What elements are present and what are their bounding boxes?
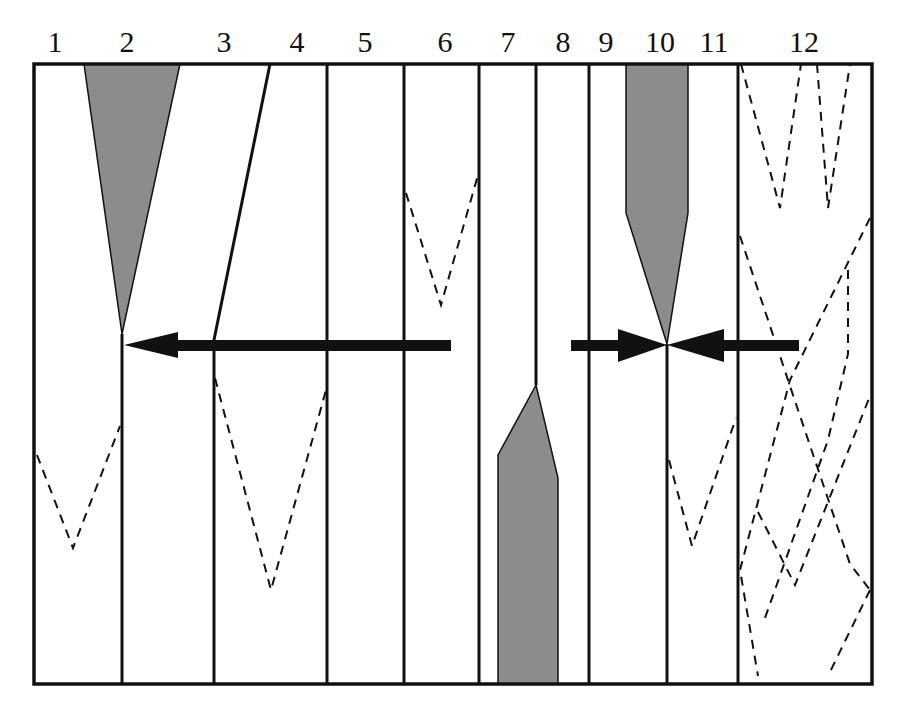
column-label-12: 12: [789, 25, 819, 58]
column-label-11: 11: [700, 25, 729, 58]
column-label-7: 7: [501, 25, 516, 58]
arrow-left-head: [124, 332, 178, 358]
column-label-2: 2: [120, 25, 135, 58]
zigzag-col12-top-a: [741, 64, 801, 208]
zigzag-col12-cross-d: [758, 396, 870, 585]
arrow-left-shaft: [175, 340, 451, 351]
column-label-9: 9: [599, 25, 614, 58]
arrow-left-in-head: [667, 329, 724, 362]
zigzag-col12-cross-c: [765, 270, 848, 618]
zigzag-col11: [669, 418, 736, 546]
strip-diagram: 1 2 3 4 5 6 7 8 9 10 11 12: [0, 0, 897, 716]
wedge-col10: [626, 64, 688, 344]
zigzag-col12-top-b: [817, 64, 850, 208]
wedge-col7-8: [498, 385, 558, 684]
arrow-right-in-shaft: [571, 340, 621, 351]
dashed-zigzags: [37, 64, 870, 676]
zigzag-col12-bottom: [828, 590, 870, 676]
arrow-left-in-shaft: [720, 340, 799, 351]
wedge-col2: [84, 64, 180, 334]
zigzag-col1: [37, 426, 120, 548]
column-label-10: 10: [645, 25, 675, 58]
gray-wedges: [84, 64, 688, 684]
zigzag-col12-cross-a: [740, 236, 870, 590]
column-label-6: 6: [438, 25, 453, 58]
column-label-3: 3: [217, 25, 232, 58]
column-label-1: 1: [48, 25, 63, 58]
column-label-4: 4: [290, 25, 305, 58]
zigzag-col3-4: [215, 378, 326, 590]
arrow-right-in-head: [618, 329, 667, 362]
zigzag-col6: [406, 175, 478, 305]
column-label-5: 5: [358, 25, 373, 58]
column-labels: 1 2 3 4 5 6 7 8 9 10 11 12: [48, 25, 820, 58]
column-label-8: 8: [556, 25, 571, 58]
divider-col3: [214, 64, 270, 684]
arrows: [124, 329, 799, 362]
